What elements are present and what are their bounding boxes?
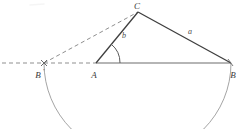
prime-mark-bprime: ' <box>43 67 44 75</box>
vertex-label-b: B <box>230 70 236 80</box>
side-label-b: b <box>122 31 126 40</box>
geometry-figure: C A B B ' a b <box>0 0 241 129</box>
scan-artifact <box>30 4 44 5</box>
vertex-label-a: A <box>90 70 97 80</box>
figure-canvas: C A B B ' a b <box>0 0 241 129</box>
vertex-label-bprime: B <box>35 70 41 80</box>
figure-background <box>0 0 241 129</box>
side-label-a: a <box>188 27 192 36</box>
vertex-label-c: C <box>134 1 141 11</box>
